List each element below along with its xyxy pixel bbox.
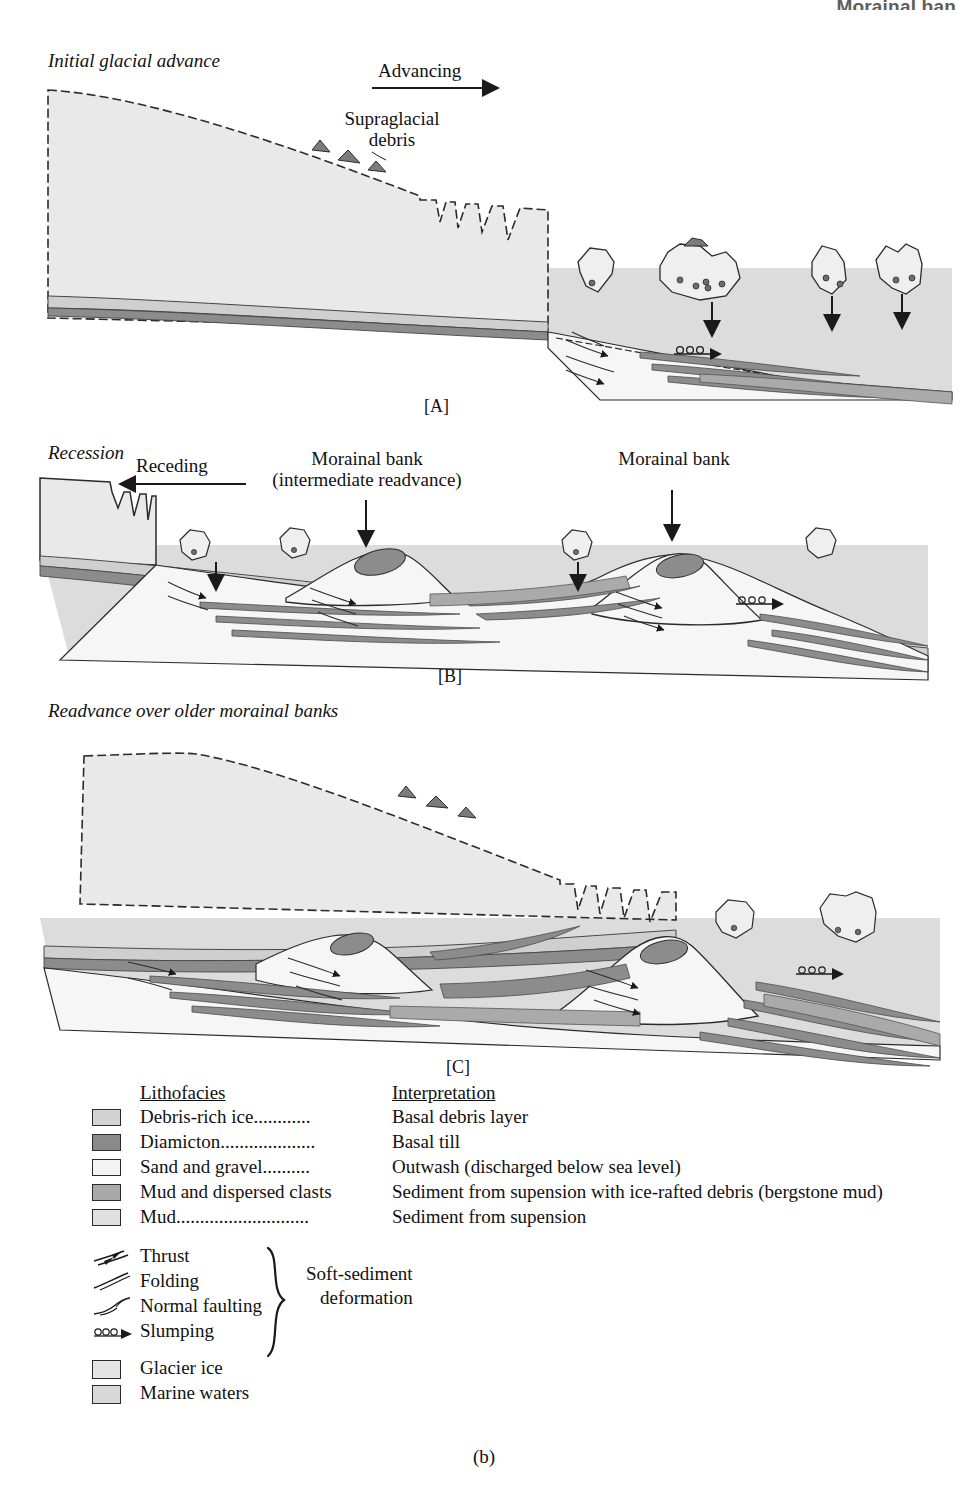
iceberg	[812, 246, 846, 294]
background-bleed-text-line-1: of the series when it be back last its g…	[150, 822, 392, 838]
soft-sediment-deformation-label: Soft-sediment deformation	[306, 1262, 413, 1310]
slumping-icon	[92, 1320, 136, 1342]
iceberg-clasts	[589, 275, 915, 291]
panel-c-icebergs	[716, 892, 876, 942]
soft-sediment-brace-icon	[258, 1246, 298, 1358]
panel-a-basal-till	[48, 308, 548, 340]
panel-b-sediment-beds	[200, 586, 928, 672]
panel-c-sediment-beds	[150, 926, 940, 1066]
supraglacial-debris-leader	[372, 152, 386, 160]
panel-c-deformation-marks	[128, 958, 640, 1014]
legend-material-row: Glacier ice	[92, 1357, 912, 1382]
panel-a-direction-label: Advancing	[378, 60, 461, 82]
morainal-bank-intermediate-callout: Morainal bank (intermediate readvance)	[250, 448, 484, 491]
panel-a-glacier-ice	[48, 90, 548, 330]
background-bleed-text-line-3: before it a from and of old distinct fac…	[155, 864, 437, 880]
legend-symbol-row: Normal faulting	[92, 1295, 912, 1320]
legend-row: Mud and dispersed clasts Sediment from s…	[92, 1181, 912, 1206]
legend-lithofacies-label: Mud and dispersed clasts	[140, 1181, 332, 1203]
morainal-bank-till-cap	[654, 550, 706, 581]
legend-interpretation-header: Interpretation	[392, 1082, 495, 1104]
panel-b-basal-debris-layer	[40, 556, 928, 660]
normal-faulting-icon	[92, 1295, 136, 1317]
legend-row: Debris-rich ice............ Basal debris…	[92, 1106, 912, 1131]
panel-a-basal-debris-layer	[48, 296, 548, 332]
legend-symbol-row: Folding	[92, 1270, 912, 1295]
iceberg	[578, 248, 614, 292]
legend-interpretation-label: Basal till	[392, 1131, 460, 1153]
panel-b-marine-water	[40, 545, 928, 660]
thrust-icon	[92, 1245, 136, 1267]
legend-swatch-diamicton	[92, 1134, 121, 1151]
legend-interpretation-label: Outwash (discharged below sea level)	[392, 1156, 681, 1178]
panel-c-letter: [C]	[446, 1057, 470, 1078]
panel-b-deformation-marks	[168, 582, 664, 630]
soft-sediment-line2: deformation	[306, 1286, 413, 1310]
legend-symbol-row: Slumping	[92, 1320, 912, 1345]
subfigure-label: (b)	[0, 1446, 968, 1468]
legend-material-row: Marine waters	[92, 1382, 912, 1407]
legend-headers: Lithofacies Interpretation	[92, 1082, 912, 1106]
legend-lithofacies-label: Sand and gravel..........	[140, 1156, 310, 1178]
legend-interpretation-label: Basal debris layer	[392, 1106, 528, 1128]
panel-b-glacier-remnant	[40, 478, 156, 565]
panel-a-mud-clast-bed	[700, 374, 952, 404]
panel-a-slumping-icon	[674, 347, 722, 360]
legend-row: Diamicton.................... Basal till	[92, 1131, 912, 1156]
legend-swatch-debris-rich-ice	[92, 1109, 121, 1126]
iceberg-large	[660, 244, 740, 300]
legend-swatch-mud-and-dispersed-clasts	[92, 1184, 121, 1201]
panel-b-iceberg-clasts	[191, 547, 578, 554]
legend-material-label: Marine waters	[140, 1382, 249, 1404]
panel-b-basal-till	[40, 566, 928, 672]
morainal-bank-callout: Morainal bank	[594, 448, 754, 469]
soft-sediment-line1: Soft-sediment	[306, 1262, 413, 1286]
panel-c-outwash	[44, 968, 940, 1060]
legend-row: Sand and gravel.......... Outwash (disch…	[92, 1156, 912, 1181]
background-bleed-text-line-2: unrelated..a new chapter section. Edit t…	[135, 843, 478, 859]
legend-swatch-mud	[92, 1209, 121, 1226]
panel-c-slumping-icon	[796, 967, 844, 980]
slumping-callout: Slumping	[730, 345, 804, 366]
panel-a-title: Initial glacial advance	[48, 50, 220, 72]
panel-a-deformation-marks	[566, 332, 614, 384]
panel-c-title: Readvance over older morainal banks	[48, 700, 338, 722]
legend-swatch-sand-and-gravel	[92, 1159, 121, 1176]
panel-b-letter: [B]	[438, 666, 462, 687]
supraglacial-debris-label-line2: debris	[332, 129, 452, 150]
legend-lithofacies-label: Diamicton....................	[140, 1131, 315, 1153]
legend-swatch-glacier-ice	[92, 1360, 121, 1379]
legend-symbol-label: Normal faulting	[140, 1295, 262, 1317]
folding-icon	[92, 1270, 136, 1292]
morainal-bank-intermediate-line2: (intermediate readvance)	[250, 469, 484, 490]
panel-c-till-cap-2	[638, 936, 690, 967]
morainal-bank-intermediate-line1: Morainal bank	[250, 448, 484, 469]
morainal-bank	[592, 554, 762, 625]
panel-c-mud-clast-beds	[390, 994, 940, 1046]
panel-a-icebergs	[578, 244, 922, 300]
panel-b-mud-clast-bed	[430, 576, 630, 606]
panel-a-marine-water	[548, 268, 952, 392]
panel-b-outwash	[60, 555, 928, 680]
morainal-bank-intermediate	[286, 551, 456, 605]
panel-c-older-morainal-bank-1	[256, 935, 432, 994]
panel-c-basal-till	[44, 944, 676, 972]
panel-b-slumping-icon	[736, 597, 784, 610]
panel-b-title: Recession	[48, 442, 124, 464]
figure-page: Morainal ban of the series when it be ba…	[0, 0, 968, 1486]
legend-lithofacies-label: Debris-rich ice............	[140, 1106, 310, 1128]
legend-symbol-row: Thrust	[92, 1245, 912, 1270]
legend-symbol-label: Slumping	[140, 1320, 214, 1342]
legend-symbol-label: Thrust	[140, 1245, 190, 1267]
legend-lithofacies-label: Mud............................	[140, 1206, 309, 1228]
panel-b-icebergs	[180, 528, 836, 560]
panel-c-morainal-bank-2	[560, 937, 758, 1025]
legend-interpretation-label: Sediment from supension with ice-rafted …	[392, 1181, 883, 1203]
legend: Lithofacies Interpretation Debris-rich i…	[92, 1082, 912, 1407]
panel-a-letter: [A]	[424, 396, 449, 417]
supraglacial-debris-label-line1: Supraglacial	[332, 108, 452, 129]
panel-c-till-cap-1	[328, 929, 376, 959]
legend-swatch-marine-waters	[92, 1385, 121, 1404]
panel-b-direction-label: Receding	[136, 455, 208, 477]
panel-c-iceberg-clasts	[731, 925, 861, 935]
